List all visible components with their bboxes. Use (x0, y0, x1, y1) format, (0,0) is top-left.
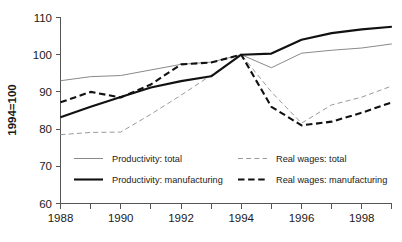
legend-label-productivity-total: Productivity: total (112, 154, 182, 164)
y-axis: 110 100 90 80 70 60 1994=100 (6, 12, 61, 210)
x-tick-label-1988: 1988 (48, 212, 74, 224)
y-tick-label-110: 110 (34, 12, 52, 24)
x-tick-label-1992: 1992 (168, 212, 194, 224)
legend-label-real-wages-total: Real wages: total (276, 154, 346, 164)
x-tick-label-1994: 1994 (228, 212, 254, 224)
line-chart: 110 100 90 80 70 60 1994=100 (0, 0, 402, 242)
x-axis: 1988 1990 1992 1994 1996 1998 (48, 204, 392, 225)
y-tick-label-70: 70 (39, 160, 52, 172)
legend-label-productivity-manufacturing: Productivity: manufacturing (112, 175, 223, 185)
x-tick-label-1990: 1990 (108, 212, 134, 224)
y-tick-label-60: 60 (39, 198, 52, 210)
y-axis-ticks (56, 18, 61, 204)
y-tick-label-90: 90 (39, 86, 52, 98)
data-series-group (61, 27, 392, 135)
x-tick-label-1996: 1996 (289, 212, 315, 224)
y-tick-label-80: 80 (39, 123, 52, 135)
y-axis-tick-labels: 110 100 90 80 70 60 (33, 12, 52, 210)
x-axis-tick-labels: 1988 1990 1992 1994 1996 1998 (48, 212, 375, 224)
x-axis-ticks (61, 204, 392, 210)
legend: Productivity: total Real wages: total Pr… (74, 154, 387, 185)
x-tick-label-1998: 1998 (349, 212, 375, 224)
y-axis-title: 1994=100 (6, 84, 18, 136)
legend-label-real-wages-manufacturing: Real wages: manufacturing (276, 175, 387, 185)
series-line-productivity-total (61, 44, 392, 81)
chart-canvas: 110 100 90 80 70 60 1994=100 (0, 0, 402, 242)
y-tick-label-100: 100 (33, 49, 52, 61)
series-line-productivity-manufacturing (61, 27, 392, 117)
